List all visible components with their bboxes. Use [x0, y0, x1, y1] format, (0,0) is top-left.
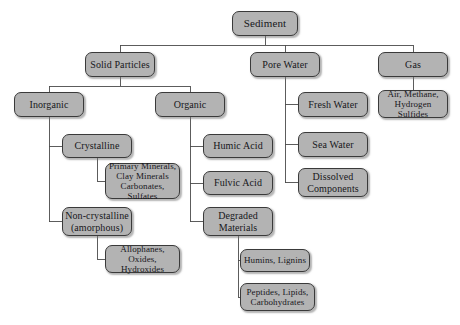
- node-pore[interactable]: Pore Water: [250, 52, 320, 77]
- node-noncryst[interactable]: Non-crystalline (amorphous): [62, 207, 132, 236]
- node-allophanes[interactable]: Allophanes, Oxides, Hydroxides: [105, 245, 180, 273]
- node-airmethane[interactable]: Air, Methane, Hydrogen Sulfides: [378, 90, 448, 118]
- node-gas[interactable]: Gas: [378, 52, 448, 77]
- node-fresh[interactable]: Fresh Water: [298, 92, 368, 117]
- node-organic[interactable]: Organic: [155, 92, 225, 117]
- node-crystalline[interactable]: Crystalline: [62, 134, 132, 158]
- node-fulvic[interactable]: Fulvic Acid: [203, 171, 273, 195]
- diagram-canvas: SedimentSolid ParticlesPore WaterGasInor…: [0, 0, 460, 325]
- connector-lines: [0, 0, 460, 325]
- node-peptides[interactable]: Peptides, Lipids, Carbohydrates: [240, 283, 315, 311]
- node-sea[interactable]: Sea Water: [298, 132, 368, 157]
- node-humins[interactable]: Humins, Lignins: [240, 249, 310, 272]
- node-degraded[interactable]: Degraded Materials: [203, 207, 273, 236]
- node-sediment[interactable]: Sediment: [232, 11, 298, 36]
- node-humic[interactable]: Humic Acid: [203, 134, 273, 158]
- node-solid[interactable]: Solid Particles: [85, 52, 155, 77]
- node-inorganic[interactable]: Inorganic: [14, 92, 84, 117]
- node-dissolved[interactable]: Dissolved Components: [298, 168, 368, 197]
- node-primary[interactable]: Primary Minerals, Clay Minerals Carbonat…: [105, 163, 180, 199]
